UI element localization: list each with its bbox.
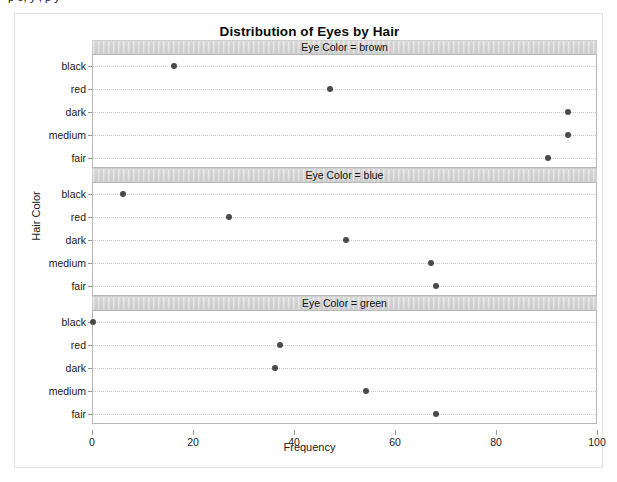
y-tick-label-red: red	[71, 339, 86, 351]
gridline-medium	[93, 135, 596, 136]
y-tick-label-red: red	[71, 211, 86, 223]
y-tick-mark-fair	[88, 158, 92, 159]
data-point-brown-black[interactable]	[171, 63, 177, 69]
y-tick-mark-black	[88, 66, 92, 67]
gridline-red	[93, 89, 596, 90]
y-tick-mark-medium	[88, 263, 92, 264]
y-tick-mark-dark	[88, 368, 92, 369]
y-axis-title: Hair Color	[30, 191, 42, 241]
x-axis-title: Frequency	[15, 441, 604, 453]
gridline-black	[93, 322, 596, 323]
data-point-brown-dark[interactable]	[565, 109, 571, 115]
data-point-green-dark[interactable]	[272, 365, 278, 371]
clipped-top-text: p e, y , p y	[8, 0, 60, 3]
y-tick-label-red: red	[71, 83, 86, 95]
gridline-fair	[93, 286, 596, 287]
y-tick-label-black: black	[61, 316, 86, 328]
data-point-blue-dark[interactable]	[343, 237, 349, 243]
facet-panel-header-green: Eye Color = green	[92, 296, 597, 310]
facet-panel-body-green: blackreddarkmediumfair	[92, 310, 597, 424]
y-tick-mark-red	[88, 217, 92, 218]
data-point-green-black[interactable]	[90, 319, 96, 325]
y-tick-mark-fair	[88, 286, 92, 287]
data-point-brown-fair[interactable]	[545, 155, 551, 161]
data-point-brown-medium[interactable]	[565, 132, 571, 138]
gridline-medium	[93, 391, 596, 392]
y-tick-label-medium: medium	[49, 257, 86, 269]
gridline-dark	[93, 112, 596, 113]
y-tick-mark-dark	[88, 112, 92, 113]
data-point-blue-red[interactable]	[226, 214, 232, 220]
y-tick-label-medium: medium	[49, 129, 86, 141]
gridline-black	[93, 66, 596, 67]
data-point-blue-medium[interactable]	[428, 260, 434, 266]
y-tick-mark-black	[88, 194, 92, 195]
x-tick-mark-100	[597, 430, 598, 435]
page-title: Distribution of Eyes by Hair	[15, 24, 604, 39]
data-point-green-red[interactable]	[277, 342, 283, 348]
y-tick-label-fair: fair	[71, 152, 86, 164]
y-tick-mark-red	[88, 345, 92, 346]
gridline-fair	[93, 414, 596, 415]
y-tick-mark-fair	[88, 414, 92, 415]
gridline-dark	[93, 368, 596, 369]
x-tick-mark-20	[193, 430, 194, 435]
y-tick-mark-medium	[88, 135, 92, 136]
y-tick-label-fair: fair	[71, 280, 86, 292]
facet-panel-header-brown: Eye Color = brown	[92, 40, 597, 54]
y-tick-label-dark: dark	[66, 106, 86, 118]
gridline-red	[93, 217, 596, 218]
y-tick-label-fair: fair	[71, 408, 86, 420]
x-tick-mark-0	[92, 430, 93, 435]
gridline-medium	[93, 263, 596, 264]
data-point-brown-red[interactable]	[327, 86, 333, 92]
data-point-green-fair[interactable]	[433, 411, 439, 417]
gridline-black	[93, 194, 596, 195]
y-tick-label-black: black	[61, 188, 86, 200]
facet-panel-body-blue: blackreddarkmediumfair	[92, 182, 597, 296]
y-tick-mark-medium	[88, 391, 92, 392]
x-tick-mark-80	[496, 430, 497, 435]
y-tick-label-dark: dark	[66, 362, 86, 374]
gridline-red	[93, 345, 596, 346]
y-tick-label-dark: dark	[66, 234, 86, 246]
facet-panel-body-brown: blackreddarkmediumfair	[92, 54, 597, 168]
chart-figure: Distribution of Eyes by Hair Hair Color …	[14, 13, 603, 468]
facet-panel-green: Eye Color = greenblackreddarkmediumfair	[92, 296, 597, 424]
facet-panel-blue: Eye Color = blueblackreddarkmediumfair	[92, 168, 597, 296]
y-tick-label-medium: medium	[49, 385, 86, 397]
facet-panel-header-blue: Eye Color = blue	[92, 168, 597, 182]
x-tick-mark-60	[395, 430, 396, 435]
data-point-blue-black[interactable]	[120, 191, 126, 197]
y-tick-mark-dark	[88, 240, 92, 241]
x-tick-mark-40	[294, 430, 295, 435]
plot-area: Eye Color = brownblackreddarkmediumfairE…	[92, 40, 597, 430]
y-tick-label-black: black	[61, 60, 86, 72]
data-point-blue-fair[interactable]	[433, 283, 439, 289]
y-tick-mark-red	[88, 89, 92, 90]
facet-panel-brown: Eye Color = brownblackreddarkmediumfair	[92, 40, 597, 168]
gridline-fair	[93, 158, 596, 159]
data-point-green-medium[interactable]	[363, 388, 369, 394]
